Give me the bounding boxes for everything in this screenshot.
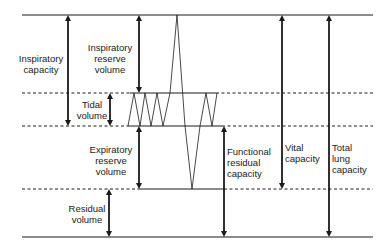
spirogram-trace xyxy=(128,15,217,189)
functional-residual-capacity-label: Functional residual capacity xyxy=(227,146,271,179)
vital-capacity-label: Vital capacity xyxy=(285,142,320,164)
inspiratory-reserve-volume-label: Inspiratory reserve volume xyxy=(83,42,137,75)
tidal-volume-label: Tidal volume xyxy=(74,99,110,121)
spirogram-svg xyxy=(0,0,385,248)
residual-volume-label: Residual volume xyxy=(66,203,108,225)
total-lung-capacity-label: Total lung capacity xyxy=(332,142,367,175)
lung-volume-diagram: Inspiratory capacity Inspiratory reserve… xyxy=(0,0,385,248)
expiratory-reserve-volume-label: Expiratory reserve volume xyxy=(84,144,138,177)
inspiratory-capacity-label: Inspiratory capacity xyxy=(15,53,67,75)
